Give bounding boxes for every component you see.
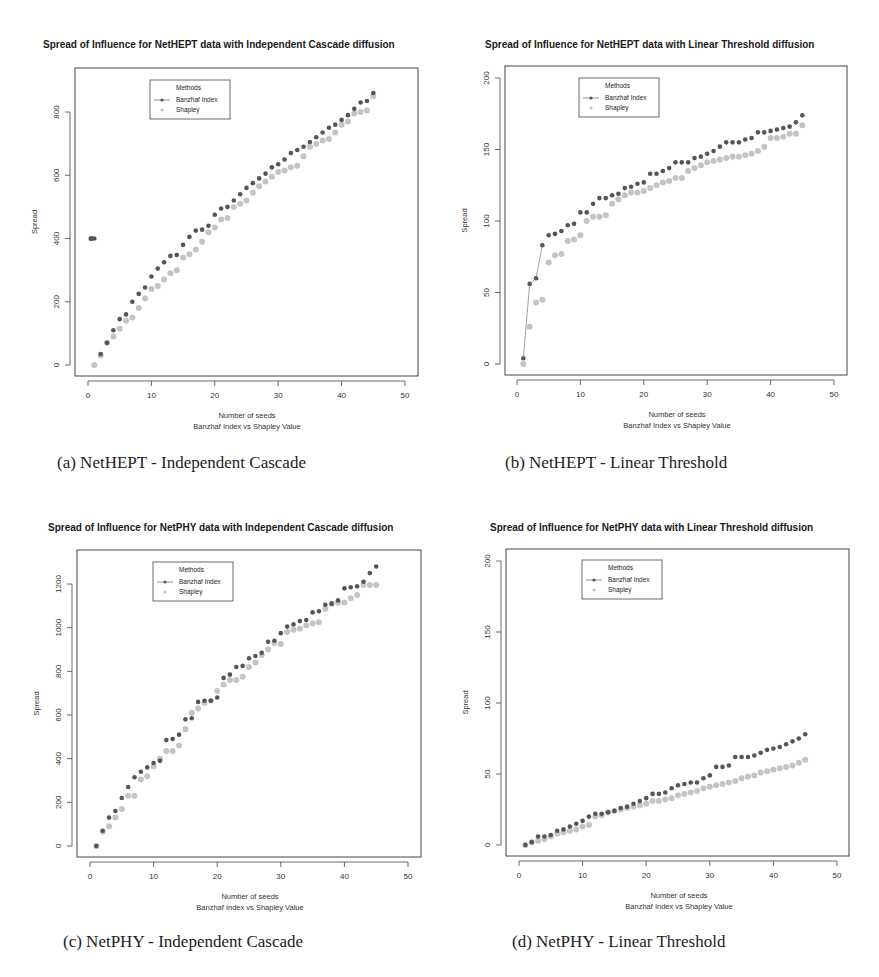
data-point <box>662 797 668 803</box>
data-point <box>803 732 808 737</box>
data-point <box>580 819 585 824</box>
data-point <box>586 822 592 828</box>
data-point <box>681 791 687 797</box>
data-point <box>568 824 573 829</box>
data-point <box>650 792 655 797</box>
data-point <box>656 798 662 804</box>
data-point <box>612 809 617 814</box>
data-point <box>714 765 719 770</box>
data-point <box>688 780 693 785</box>
data-point <box>784 742 789 747</box>
legend-marker-shapley <box>592 588 595 591</box>
data-point <box>797 736 802 741</box>
data-point <box>732 778 738 784</box>
data-point <box>790 739 795 744</box>
data-point <box>587 814 592 819</box>
data-point <box>669 786 674 791</box>
legend-label-banzhaf: Banzhaf Index <box>608 576 650 583</box>
data-point <box>707 784 713 790</box>
data-point <box>758 750 763 755</box>
data-point <box>770 767 776 773</box>
x-tick-label: 10 <box>578 871 587 880</box>
data-point <box>561 827 566 832</box>
data-point <box>676 783 681 788</box>
data-point <box>549 833 554 838</box>
y-tick-label: 50 <box>483 769 492 778</box>
data-point <box>523 843 528 848</box>
y-tick-label: 0 <box>483 842 492 847</box>
data-point <box>745 774 751 780</box>
data-point <box>720 765 725 770</box>
x-axis-sublabel: Banzhaf Index vs Shapley Value <box>625 902 732 911</box>
y-tick-label: 200 <box>483 554 492 568</box>
data-point <box>593 811 598 816</box>
legend-marker-banzhaf <box>592 578 595 581</box>
data-point <box>733 755 738 760</box>
data-point <box>752 753 757 758</box>
y-axis-label: Spread <box>461 690 470 714</box>
data-point <box>606 810 611 815</box>
data-point <box>682 782 687 787</box>
data-point <box>580 824 586 830</box>
data-point <box>700 785 706 791</box>
data-point <box>644 796 649 801</box>
data-point <box>789 762 795 768</box>
chart-plot-d: 01020304050050100150200SpreadNumber of s… <box>0 0 879 977</box>
data-point <box>777 765 783 771</box>
data-point <box>542 834 547 839</box>
data-point <box>688 789 694 795</box>
data-point <box>638 799 643 804</box>
data-point <box>701 776 706 781</box>
data-point <box>771 746 776 751</box>
data-point <box>720 781 726 787</box>
y-axis: 050100150200 <box>483 554 501 847</box>
y-tick-label: 100 <box>483 696 492 710</box>
data-point <box>783 764 789 770</box>
data-point <box>618 806 623 811</box>
data-point <box>625 804 630 809</box>
legend-title: Methods <box>608 564 634 571</box>
data-point <box>599 811 604 816</box>
data-point <box>529 840 534 845</box>
data-point <box>739 775 745 781</box>
data-point <box>764 768 770 774</box>
y-tick-label: 150 <box>483 625 492 639</box>
data-point <box>751 772 757 778</box>
data-point <box>657 792 662 797</box>
x-tick-label: 0 <box>517 871 522 880</box>
data-point <box>713 782 719 788</box>
data-point <box>726 780 732 786</box>
data-point <box>727 763 732 768</box>
data-point <box>669 795 675 801</box>
data-point <box>663 790 668 795</box>
data-point <box>765 748 770 753</box>
data-point <box>536 834 541 839</box>
series-banzhaf <box>523 732 807 847</box>
x-tick-label: 50 <box>833 871 842 880</box>
x-tick-label: 30 <box>705 871 714 880</box>
data-point <box>695 780 700 785</box>
data-point <box>675 792 681 798</box>
x-tick-label: 20 <box>642 871 651 880</box>
data-point <box>802 757 808 763</box>
series-shapley <box>522 757 808 848</box>
legend: MethodsBanzhaf IndexShapley <box>582 560 662 599</box>
x-axis: 01020304050 <box>517 861 842 880</box>
data-point <box>708 773 713 778</box>
data-point <box>739 755 744 760</box>
data-point <box>643 801 649 807</box>
data-point <box>555 829 560 834</box>
data-point <box>631 802 636 807</box>
x-axis-label: Number of seeds <box>650 891 707 900</box>
data-point <box>777 745 782 750</box>
plot-frame <box>506 549 849 856</box>
legend-label-shapley: Shapley <box>608 586 632 594</box>
caption-d: (d) NetPHY - Linear Threshold <box>512 932 725 952</box>
data-point <box>650 798 656 804</box>
data-point <box>694 788 700 794</box>
data-point <box>574 821 579 826</box>
data-point <box>796 760 802 766</box>
data-point <box>746 755 751 760</box>
data-point <box>758 770 764 776</box>
data-point <box>573 826 579 832</box>
